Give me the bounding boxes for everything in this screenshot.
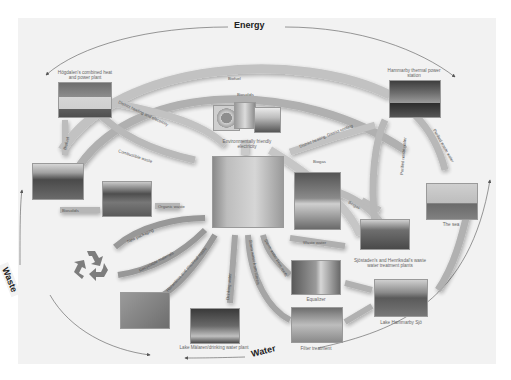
arrow-label: Storm water from roofs	[263, 238, 289, 277]
node-caption-equalizer: Equalizer	[291, 297, 341, 302]
node-caption-hammarby-thermal: Hammarby thermal power station	[386, 68, 442, 79]
photo-lake-malaren	[190, 308, 240, 344]
arrow-label: Organic waste	[158, 204, 185, 209]
photo-waste-bins	[120, 292, 170, 329]
arrow-equalizer-lake	[345, 283, 372, 290]
arrow-label: Waste water	[303, 240, 327, 245]
recycle-icon	[74, 251, 108, 281]
arrow-label: Biosolids	[62, 208, 79, 213]
node-caption-sjostaden: Sjöstaden's and Henriksdal's waste water…	[350, 258, 430, 269]
photo-hogdalen-plant	[58, 82, 112, 118]
node-caption-filter: Filter treatment	[291, 346, 341, 351]
photo-sjostaden	[360, 219, 410, 250]
node-caption-hogdalen: Högdalen's combined heat and power plant	[57, 70, 113, 81]
photo-biogas-vehicles	[294, 172, 341, 230]
energy-cycle-line	[46, 27, 228, 75]
photo-filter-treatment	[291, 307, 343, 343]
photo-field	[32, 163, 84, 200]
photo-compost	[102, 181, 152, 217]
node-caption-lake-malaren: Lake Mälaren/drinking water plant	[168, 345, 260, 350]
photo-equalizer	[291, 260, 341, 295]
node-caption-sea: The sea	[426, 222, 476, 227]
photo-wind	[254, 107, 281, 133]
arrow-label: Combustible waste	[118, 148, 154, 164]
waste-cycle-line	[20, 190, 22, 265]
photo-residence	[212, 156, 284, 228]
photo-sea	[426, 183, 478, 220]
arrow-label: Biosolids	[237, 92, 254, 97]
water-cycle-line	[185, 357, 245, 358]
photo-lake-hammarby	[374, 279, 428, 317]
photo-hammarby-thermal	[389, 80, 441, 118]
arrow-label: Biofuel	[228, 76, 241, 81]
arrow-drinking-water	[230, 235, 235, 303]
photo-solar-cells	[234, 102, 256, 129]
node-caption-lake-hammarby: Lake Hammarby Sjö	[372, 320, 430, 325]
node-caption-env-electricity: Environmentally friendly electricity	[216, 139, 278, 150]
energy-title: Energy	[230, 20, 269, 30]
arrow-label: Biogas	[313, 159, 326, 164]
arrow-filter-lake	[345, 306, 372, 322]
arrow-label: Recyclable materials	[138, 250, 174, 273]
